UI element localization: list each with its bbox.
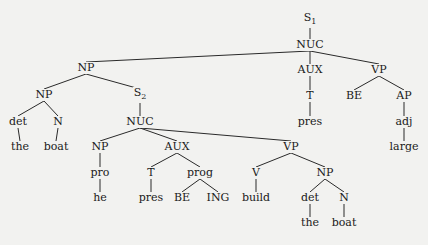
tree-node-aux1: AUX [296,64,323,76]
node-label: pres [298,115,322,128]
tree-node-det2: det [300,192,320,204]
node-label: AUX [164,140,189,153]
tree-node-n1: N [52,116,64,128]
tree-node-vp2: VP [282,141,299,153]
node-label: NP [77,61,94,74]
tree-node-det1: det [8,116,28,128]
tree-node-the2: the [300,217,320,229]
node-label: adj [395,115,412,128]
tree-node-np2: NP [34,89,53,101]
node-label: VP [371,63,386,76]
node-label: det [9,115,27,128]
node-label: NP [316,166,333,179]
node-label: T [147,166,154,179]
tree-node-pres1: pres [297,116,323,128]
node-label: NP [35,88,52,101]
node-label: pres [139,191,163,204]
node-label: BE [346,89,362,102]
tree-node-be2: BE [173,192,191,204]
tree-node-s2: S2 [133,87,148,103]
tree-node-the1: the [10,141,30,153]
node-label: AP [396,89,411,102]
tree-node-nuc2: NUC [125,116,154,128]
tree-node-nuc1: NUC [295,39,324,51]
node-subscript: 1 [311,17,316,26]
node-label: BE [174,191,190,204]
node-label: boat [332,216,357,229]
node-label: pro [91,166,110,179]
node-label: he [93,191,107,204]
node-label: S [304,11,312,24]
tree-node-t2: T [146,167,155,179]
tree-edge [86,51,310,62]
node-label: large [390,140,419,153]
node-label: S [134,86,142,99]
node-label: AUX [297,63,322,76]
tree-edge [379,76,404,90]
tree-node-he1: he [92,192,108,204]
node-label: boat [44,140,69,153]
tree-edges [0,0,428,245]
tree-node-ing1: ING [206,192,231,204]
node-label: det [301,191,319,204]
node-label: ING [207,191,230,204]
node-label: V [252,166,260,179]
tree-node-pres2: pres [138,192,164,204]
tree-node-np3: NP [90,141,109,153]
tree-node-n2: N [338,192,350,204]
tree-edge [354,76,379,90]
tree-node-aux2: AUX [163,141,190,153]
node-subscript: 2 [141,92,146,101]
tree-node-prog1: prog [186,167,214,179]
tree-edge [44,74,86,89]
tree-node-np1: NP [76,62,95,74]
node-label: NP [91,140,108,153]
tree-node-t1: T [305,90,314,102]
node-label: NUC [296,38,323,51]
tree-edge [151,153,177,167]
tree-node-boat2: boat [331,217,358,229]
tree-node-adj1: adj [394,116,413,128]
tree-edge [140,128,291,141]
node-label: the [301,216,319,229]
node-label: the [11,140,29,153]
tree-node-large1: large [389,141,420,153]
tree-node-vp1: VP [370,64,387,76]
tree-edge [291,153,325,167]
tree-edge [18,101,44,116]
tree-node-v1: V [251,167,261,179]
tree-node-ap1: AP [395,90,412,102]
node-label: N [53,115,63,128]
tree-edge [256,153,291,167]
tree-node-be1: BE [345,90,363,102]
node-label: N [339,191,349,204]
tree-node-pro1: pro [90,167,111,179]
node-label: T [306,89,313,102]
tree-node-build1: build [241,192,271,204]
tree-edge [44,101,58,116]
node-label: VP [283,140,298,153]
node-label: build [242,191,270,204]
tree-node-np4: NP [315,167,334,179]
tree-edge [177,153,200,167]
node-label: prog [187,166,213,179]
node-label: NUC [126,115,153,128]
tree-node-boat1: boat [43,141,70,153]
tree-node-s1: S1 [303,12,318,28]
